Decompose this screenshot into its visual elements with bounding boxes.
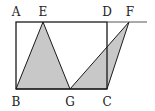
label-A: A	[11, 5, 21, 19]
geometry-diagram: A E D F B G C	[0, 0, 155, 111]
label-B: B	[12, 95, 21, 109]
triangle-GCF	[70, 22, 129, 89]
label-G: G	[65, 95, 75, 109]
label-E: E	[39, 5, 48, 19]
label-F: F	[126, 5, 134, 19]
triangle-EBG	[16, 22, 70, 89]
label-C: C	[102, 95, 111, 109]
label-D: D	[102, 5, 112, 19]
